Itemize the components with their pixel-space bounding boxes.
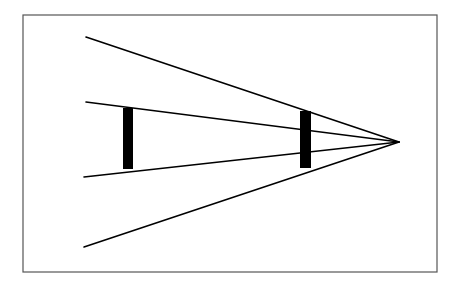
ponzo-illusion-figure <box>0 0 463 288</box>
right-bar <box>300 111 311 168</box>
figure-border <box>23 15 437 272</box>
figure-container <box>0 0 463 288</box>
left-bar <box>123 108 133 169</box>
